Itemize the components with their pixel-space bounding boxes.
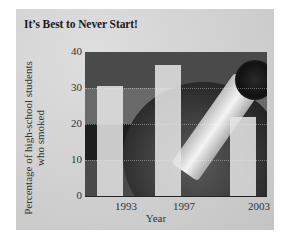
plot-area	[85, 52, 267, 197]
y-tick-0: 0	[60, 189, 82, 201]
chart-panel: It’s Best to Never Start! Percentage of …	[16, 9, 274, 230]
x-axis-label: Year	[126, 212, 186, 224]
x-tick-2003: 2003	[234, 200, 284, 212]
y-axis-label-line-2: who smoked	[34, 58, 46, 218]
y-tick-20: 20	[60, 117, 82, 129]
x-tick-1997: 1997	[159, 200, 209, 212]
chart-title: It’s Best to Never Start!	[24, 18, 138, 30]
y-tick-40: 40	[60, 45, 82, 57]
bar-1997	[155, 65, 181, 196]
x-tick-1993: 1993	[101, 200, 151, 212]
cigarette-tip-image	[235, 60, 267, 100]
y-axis-label-line-1: Percentage of high-school students	[22, 58, 34, 218]
bar-2003	[230, 117, 256, 196]
y-axis-label: Percentage of high-school students who s…	[22, 58, 46, 218]
y-tick-30: 30	[60, 81, 82, 93]
bar-1993	[97, 86, 123, 196]
y-tick-10: 10	[60, 153, 82, 165]
